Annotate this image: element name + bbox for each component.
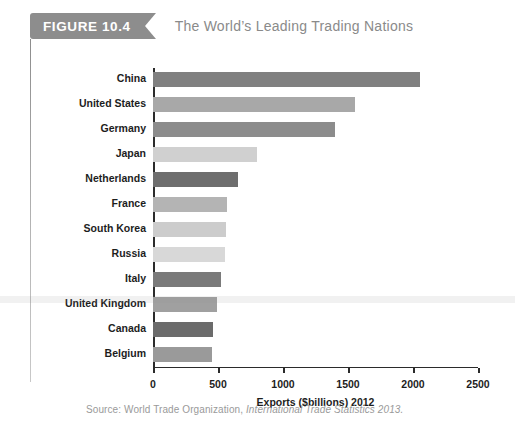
bar-row: United States <box>153 93 478 118</box>
bar-row: China <box>153 68 478 93</box>
category-label: Belgium <box>105 346 146 361</box>
bar-row: Italy <box>153 268 478 293</box>
x-axis-tick <box>153 368 155 373</box>
category-label: Germany <box>100 121 146 136</box>
bar-rows: ChinaUnited StatesGermanyJapanNetherland… <box>153 68 478 368</box>
bar <box>153 122 335 137</box>
x-axis-tick-label: 500 <box>209 378 227 390</box>
x-axis-tick <box>283 368 285 373</box>
bar <box>153 172 238 187</box>
bar-row: Belgium <box>153 343 478 368</box>
figure-badge-label: FIGURE 10.4 <box>43 19 131 34</box>
x-axis-tick-label: 2500 <box>466 378 489 390</box>
bar <box>153 297 217 312</box>
bar <box>153 247 225 262</box>
figure-badge: FIGURE 10.4 <box>30 13 145 39</box>
bar-row: United Kingdom <box>153 293 478 318</box>
bar <box>153 147 257 162</box>
category-label: Japan <box>116 146 146 161</box>
bar <box>153 347 212 362</box>
x-axis-tick <box>413 368 415 373</box>
category-label: France <box>112 196 146 211</box>
category-label: Italy <box>125 271 146 286</box>
bar-row: Japan <box>153 143 478 168</box>
category-label: Netherlands <box>85 171 146 186</box>
category-label: China <box>117 71 146 86</box>
bar <box>153 272 221 287</box>
bar <box>153 322 213 337</box>
x-axis-tick-label: 1500 <box>336 378 359 390</box>
x-axis-tick <box>218 368 220 373</box>
source-note: Source: World Trade Organization, Intern… <box>86 404 403 415</box>
x-axis-tick-label: 0 <box>150 378 156 390</box>
bar-row: Germany <box>153 118 478 143</box>
x-axis-tick-label: 1000 <box>271 378 294 390</box>
bar-row: Canada <box>153 318 478 343</box>
category-label: Canada <box>108 321 146 336</box>
bar <box>153 72 420 87</box>
bar-row: South Korea <box>153 218 478 243</box>
source-prefix: Source: World Trade Organization, <box>86 404 246 415</box>
figure-title: The World’s Leading Trading Nations <box>175 18 414 34</box>
x-axis-tick <box>348 368 350 373</box>
category-label: Russia <box>112 246 146 261</box>
figure-banner: FIGURE 10.4 The World’s Leading Trading … <box>30 13 413 39</box>
bar <box>153 97 355 112</box>
bar-row: France <box>153 193 478 218</box>
bar <box>153 222 226 237</box>
category-label: South Korea <box>84 221 146 236</box>
plot-area: ChinaUnited StatesGermanyJapanNetherland… <box>153 68 478 368</box>
x-axis-tick-label: 2000 <box>401 378 424 390</box>
category-label: United Kingdom <box>65 296 146 311</box>
source-title: International Trade Statistics 2013. <box>246 404 403 415</box>
x-axis-tick <box>478 368 480 373</box>
bar-row: Russia <box>153 243 478 268</box>
category-label: United States <box>79 96 146 111</box>
bar <box>153 197 227 212</box>
bar-chart: ChinaUnited StatesGermanyJapanNetherland… <box>0 58 515 388</box>
bar-row: Netherlands <box>153 168 478 193</box>
